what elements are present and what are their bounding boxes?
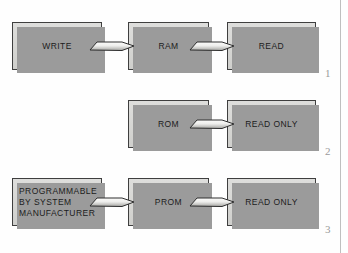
box-rom-label: ROM xyxy=(158,119,179,130)
box-read-only-prom-label: READ ONLY xyxy=(245,197,298,208)
diagram-row-prom: PROGRAMMABLE BY SYSTEM MANUFACTURER PROM… xyxy=(0,178,340,234)
box-ram[interactable]: RAM xyxy=(128,22,209,70)
row-number-2: 2 xyxy=(325,146,331,157)
box-rom[interactable]: ROM xyxy=(128,100,209,148)
box-read-label: READ xyxy=(259,41,284,52)
page-margin-rule xyxy=(340,0,341,253)
box-prom[interactable]: PROM xyxy=(128,178,209,226)
box-read-only-rom[interactable]: READ ONLY xyxy=(227,100,316,148)
box-read-only-prom[interactable]: READ ONLY xyxy=(227,178,316,226)
diagram-row-rom: ROM READ ONLY 2 xyxy=(0,100,340,156)
box-read-only-rom-label: READ ONLY xyxy=(245,119,298,130)
box-write-label: WRITE xyxy=(42,41,72,52)
box-programmable-label: PROGRAMMABLE BY SYSTEM MANUFACTURER xyxy=(19,186,97,219)
row-number-1: 1 xyxy=(325,68,331,79)
box-read[interactable]: READ xyxy=(227,22,316,70)
row-number-3: 3 xyxy=(325,224,331,235)
box-prom-label: PROM xyxy=(155,197,182,208)
memory-types-diagram: WRITE RAM READ xyxy=(0,0,348,253)
box-programmable-by-system-manufacturer[interactable]: PROGRAMMABLE BY SYSTEM MANUFACTURER xyxy=(12,178,102,226)
diagram-row-ram: WRITE RAM READ xyxy=(0,22,340,78)
box-ram-label: RAM xyxy=(158,41,178,52)
box-write[interactable]: WRITE xyxy=(12,22,102,70)
